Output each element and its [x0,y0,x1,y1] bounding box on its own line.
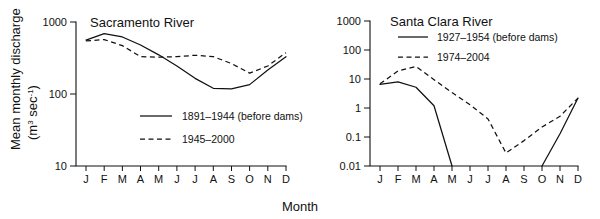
month-label-jan-right: J [377,173,383,185]
series-line-sacramento-before-dams [86,34,286,89]
month-label-jun-left: J [174,173,180,185]
y-tick-label-0.1-right: 0.1 [346,131,361,143]
month-label-dec-left: D [282,173,290,185]
legend-label-solid-right: 1927–1954 (before dams) [437,31,558,43]
series-line-sacramento-after-dams [86,40,286,74]
svg-text:(m3 sec-1): (m3 sec-1) [25,85,40,140]
month-label-feb-right: F [395,173,402,185]
month-label-aug-right: A [502,173,510,185]
panel-title-sacramento: Sacramento River [90,15,195,30]
two-panel-line-chart: Mean monthly discharge (m3 sec-1) Month … [0,0,600,219]
month-label-mar-right: M [411,173,420,185]
y-tick-label-10-left: 10 [55,160,67,172]
panel-sacramento: Sacramento River 1000 100 10 [43,15,303,185]
legend-label-solid-left: 1891–1944 (before dams) [182,110,303,122]
y-axis-title: Mean monthly discharge (m3 sec-1) [8,8,40,150]
y-tick-label-1000-left: 1000 [43,16,67,28]
y-ticks-santa-clara [364,21,370,166]
panel-santa-clara: Santa Clara River 1000 100 10 1 0.1 0.01 [337,14,583,185]
legend-label-dashed-left: 1945–2000 [182,133,235,145]
legend-sacramento: 1891–1944 (before dams) 1945–2000 [140,110,303,145]
x-tick-labels-sacramento: J F M A M J J A S O N D [83,173,290,185]
legend-label-dashed-right: 1974–2004 [437,51,490,63]
figure-container: Mean monthly discharge (m3 sec-1) Month … [0,0,600,219]
legend-santa-clara: 1927–1954 (before dams) 1974–2004 [398,31,558,63]
y-tick-label-10-right: 10 [349,73,361,85]
x-axis-title: Month [282,199,318,214]
month-label-may-right: M [447,173,456,185]
y-axis-title-line2: (m3 sec-1) [25,85,40,140]
y-tick-label-1000-right: 1000 [337,15,361,27]
panel-title-santa-clara: Santa Clara River [390,14,493,29]
y-axis-unit-open: (m [25,125,40,140]
x-tick-labels-santa-clara: J F M A M J J A S O N D [377,173,582,185]
month-label-jan-left: J [83,173,89,185]
month-label-apr-left: A [137,173,145,185]
x-ticks-santa-clara [380,166,578,171]
y-axis-title-line1: Mean monthly discharge [8,8,23,150]
y-tick-labels-santa-clara: 1000 100 10 1 0.1 0.01 [337,15,361,172]
y-tick-label-1-right: 1 [355,102,361,114]
month-label-nov-left: N [264,173,272,185]
y-ticks-sacramento [70,22,76,166]
y-axis-unit-close: ) [25,85,40,89]
month-label-mar-left: M [118,173,127,185]
month-label-jul-left: J [192,173,198,185]
month-label-sep-left: S [228,173,235,185]
month-label-oct-right: O [538,173,547,185]
month-label-oct-left: O [245,173,254,185]
y-tick-labels-sacramento: 1000 100 10 [43,16,67,172]
y-tick-label-0.01-right: 0.01 [340,160,361,172]
y-tick-label-100-left: 100 [49,88,67,100]
y-axis-unit-sec: sec [25,96,40,120]
month-label-jun-right: J [467,173,473,185]
month-label-sep-right: S [520,173,527,185]
x-ticks-sacramento [86,166,286,171]
axis-lines-sacramento [76,22,286,166]
month-label-aug-left: A [210,173,218,185]
series-line-santa-clara-after-dams [380,66,578,153]
month-label-nov-right: N [556,173,564,185]
month-label-dec-right: D [574,173,582,185]
y-tick-label-100-right: 100 [343,44,361,56]
month-label-feb-left: F [101,173,108,185]
month-label-apr-right: A [430,173,438,185]
month-label-jul-right: J [485,173,491,185]
month-label-may-left: M [154,173,163,185]
series-line-santa-clara-before-dams [380,82,578,166]
